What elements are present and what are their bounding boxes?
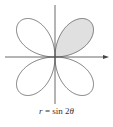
x-axis-arrow-icon [103,55,109,59]
rose-curve-figure [0,0,113,106]
shaded-petal [55,19,93,57]
equation-caption: r = sin 2θ [0,106,113,116]
equation-var: θ [69,106,73,116]
equation-mid: = sin 2 [43,106,70,116]
